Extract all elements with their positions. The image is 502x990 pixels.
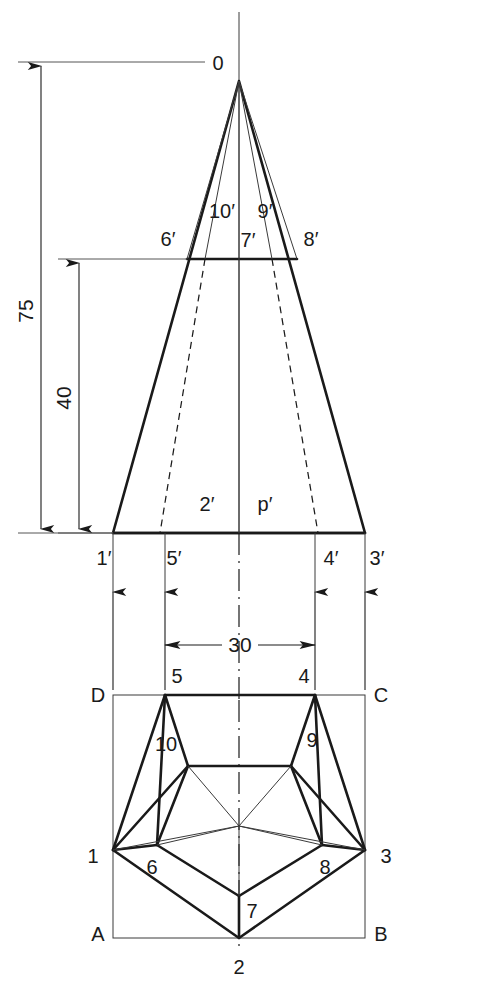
label-fv-pp: p′ (258, 493, 273, 515)
label-tv-B: B (374, 923, 387, 945)
edge-5-10 (165, 695, 188, 766)
dim-label-30: 30 (228, 633, 251, 656)
label-fv-2p: 2′ (200, 493, 215, 515)
technical-drawing-canvas: 0 10′ 9′ 6′ 7′ 8′ 2′ p′ 1′ 5′ 4′ 3′ 75 4… (0, 0, 502, 990)
label-fv-4p: 4′ (324, 547, 339, 569)
label-fv-6p: 6′ (161, 228, 176, 250)
label-tv-1: 1 (87, 845, 98, 867)
dimension-30: 30 (165, 633, 315, 656)
label-fv-10p: 10′ (209, 200, 235, 222)
label-tv-D: D (91, 684, 105, 706)
front-view-group: 0 10′ 9′ 6′ 7′ 8′ 2′ p′ 1′ 5′ 4′ 3′ (97, 52, 385, 569)
label-tv-7: 7 (246, 900, 257, 922)
label-tv-4: 4 (298, 665, 309, 687)
label-apex-o: 0 (212, 52, 223, 74)
label-fv-9p: 9′ (258, 200, 273, 222)
label-tv-C: C (374, 684, 388, 706)
dim-label-75: 75 (14, 299, 37, 322)
label-tv-3: 3 (380, 845, 391, 867)
label-fv-8p: 8′ (304, 228, 319, 250)
label-tv-2: 2 (233, 956, 244, 978)
label-tv-10: 10 (155, 733, 177, 755)
edge-3-9 (291, 766, 365, 850)
label-fv-7p: 7′ (241, 229, 256, 251)
dimension-40: 40 (52, 259, 187, 533)
label-fv-5p: 5′ (167, 547, 182, 569)
radial-p-9 (239, 766, 291, 826)
dimension-75: 75 (14, 62, 205, 533)
dim-label-40: 40 (52, 386, 75, 409)
label-tv-5: 5 (171, 665, 182, 687)
label-fv-3p: 3′ (370, 547, 385, 569)
radial-p-10 (188, 766, 239, 826)
label-fv-1p: 1′ (97, 547, 112, 569)
orthographic-projection-drawing: 0 10′ 9′ 6′ 7′ 8′ 2′ p′ 1′ 5′ 4′ 3′ 75 4… (0, 0, 502, 990)
label-tv-A: A (91, 923, 105, 945)
label-tv-6: 6 (146, 856, 157, 878)
label-tv-9: 9 (306, 729, 317, 751)
label-tv-8: 8 (319, 856, 330, 878)
